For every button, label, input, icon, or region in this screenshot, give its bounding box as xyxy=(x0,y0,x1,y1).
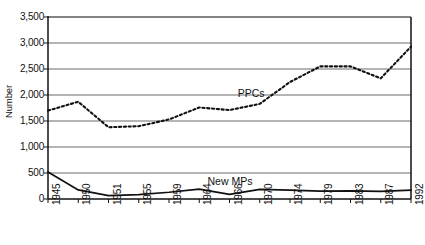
x-tick-label: 1970 xyxy=(264,184,274,205)
x-tick-label: 1979 xyxy=(324,184,334,205)
x-tick-label: 1959 xyxy=(173,184,183,205)
x-tick-label: 1951 xyxy=(113,184,123,205)
series-label-ppcs: PPCs xyxy=(238,88,265,99)
x-tick-label: 1983 xyxy=(355,184,365,205)
x-tick-label: 1974 xyxy=(294,184,304,205)
x-tick-label: 1987 xyxy=(385,184,395,205)
series-label-new-mps: New MPs xyxy=(208,176,253,187)
x-tick-label: 1992 xyxy=(415,184,425,205)
x-tick-label: 1950 xyxy=(82,184,92,205)
x-tick-label: 1945 xyxy=(52,184,62,205)
x-tick-label: 1955 xyxy=(143,184,153,205)
